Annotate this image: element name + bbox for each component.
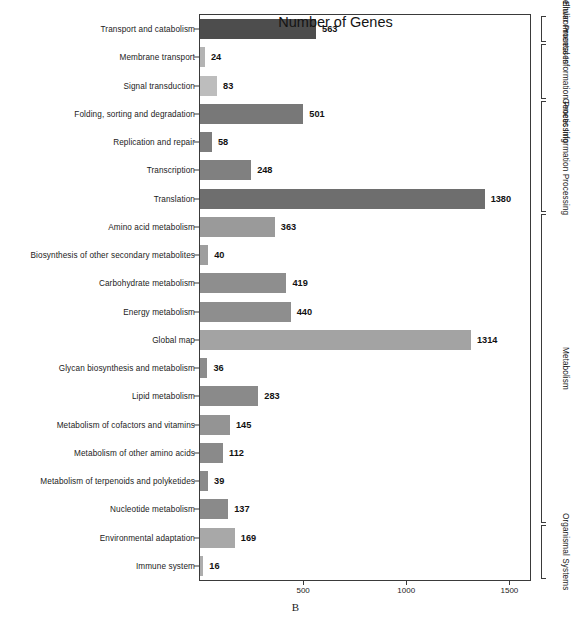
bar-row: Biosynthesis of other secondary metaboli… — [0, 241, 581, 269]
group-bracket: Environmental Information Processing — [541, 44, 581, 99]
bar — [200, 386, 258, 406]
bar — [200, 358, 207, 378]
y-axis-tick — [194, 537, 199, 538]
bar-value-label: 419 — [292, 278, 307, 288]
category-label: Energy metabolism — [123, 307, 195, 316]
category-label: Amino acid metabolism — [108, 222, 195, 231]
bar — [200, 189, 485, 209]
bar-value-label: 1380 — [491, 194, 511, 204]
bar — [200, 273, 286, 293]
category-label: Metabolism of cofactors and vitamins — [57, 420, 195, 429]
bar-row: Glycan biosynthesis and metabolism36 — [0, 354, 581, 382]
group-bracket: Organismal Systems — [541, 525, 581, 580]
y-axis-tick — [194, 509, 199, 510]
bar-value-label: 145 — [236, 420, 251, 430]
group-label: Genetic Information Processing — [541, 101, 581, 212]
y-axis-tick — [194, 481, 199, 482]
bar-value-label: 112 — [229, 448, 244, 458]
y-axis-tick — [194, 565, 199, 566]
bar-row: Signal transduction83 — [0, 72, 581, 100]
group-label: Metabolism — [541, 214, 581, 523]
category-label: Metabolism of terpenoids and polyketides — [40, 477, 195, 486]
x-axis-title-text: Number of Genes — [278, 14, 392, 30]
bar-row: Replication and repair58 — [0, 128, 581, 156]
category-label: Glycan biosynthesis and metabolism — [59, 364, 195, 373]
y-axis-tick — [194, 311, 199, 312]
category-label: Carbohydrate metabolism — [99, 279, 195, 288]
bar-row: Membrane transport24 — [0, 43, 581, 71]
group-bracket: Metabolism — [541, 214, 581, 523]
group-label-text: Organismal Systems — [552, 513, 570, 590]
bar-rows-container: Transport and catabolism563Membrane tran… — [0, 0, 581, 627]
bar-row: Environmental adaptation169 — [0, 524, 581, 552]
bar — [200, 104, 303, 124]
x-axis-title: Number of Genes — [0, 14, 581, 30]
bar-row: Folding, sorting and degradation501 — [0, 100, 581, 128]
bar — [200, 160, 251, 180]
category-label: Transcription — [147, 166, 195, 175]
category-label: Immune system — [136, 561, 195, 570]
bar-row: Carbohydrate metabolism419 — [0, 269, 581, 297]
category-label: Environmental adaptation — [100, 533, 195, 542]
bar — [200, 528, 235, 548]
category-label: Membrane transport — [119, 53, 195, 62]
bar-row: Global map1314 — [0, 326, 581, 354]
bar — [200, 443, 223, 463]
y-axis-tick — [194, 368, 199, 369]
bar-row: Nucleotide metabolism137 — [0, 495, 581, 523]
bar-value-label: 137 — [234, 504, 249, 514]
y-axis-tick — [194, 226, 199, 227]
bar-row: Metabolism of cofactors and vitamins145 — [0, 411, 581, 439]
bar-value-label: 16 — [209, 561, 219, 571]
category-label: Signal transduction — [123, 81, 195, 90]
bar — [200, 217, 275, 237]
panel-label: B — [0, 601, 581, 613]
category-label: Global map — [152, 335, 195, 344]
bar — [200, 499, 228, 519]
bar — [200, 330, 471, 350]
bar-row: Metabolism of terpenoids and polyketides… — [0, 467, 581, 495]
bar-row: Immune system16 — [0, 552, 581, 580]
x-axis-tick — [303, 581, 304, 585]
y-axis-tick — [194, 339, 199, 340]
y-axis-tick — [194, 198, 199, 199]
bar-value-label: 363 — [281, 222, 296, 232]
x-axis-tick-label: 500 — [296, 586, 309, 595]
y-axis-tick — [194, 452, 199, 453]
bar-row: Metabolism of other amino acids112 — [0, 439, 581, 467]
bar-value-label: 24 — [211, 52, 221, 62]
group-label-text: Metabolism — [552, 347, 570, 390]
panel-label-text: B — [292, 601, 299, 613]
bar-value-label: 1314 — [477, 335, 497, 345]
y-axis-tick — [194, 113, 199, 114]
bar-value-label: 440 — [297, 307, 312, 317]
y-axis-tick — [194, 142, 199, 143]
bar-row: Transcription248 — [0, 156, 581, 184]
bar — [200, 415, 230, 435]
category-label: Lipid metabolism — [132, 392, 195, 401]
y-axis-tick — [194, 85, 199, 86]
category-label: Folding, sorting and degradation — [74, 109, 195, 118]
category-group-brackets: Cellular ProcessesEnvironmental Informat… — [541, 0, 581, 627]
x-axis-tick — [509, 581, 510, 585]
bar-value-label: 169 — [241, 533, 256, 543]
group-label: Organismal Systems — [541, 525, 581, 580]
bar-value-label: 36 — [213, 363, 223, 373]
group-bracket: Genetic Information Processing — [541, 101, 581, 212]
bar-row: Energy metabolism440 — [0, 298, 581, 326]
x-axis-tick-label: 1000 — [397, 586, 415, 595]
y-axis-tick — [194, 424, 199, 425]
bar — [200, 471, 208, 491]
bar — [200, 556, 203, 576]
bar-value-label: 40 — [214, 250, 224, 260]
x-axis-tick — [406, 581, 407, 585]
y-axis-tick — [194, 396, 199, 397]
bar-row: Translation1380 — [0, 185, 581, 213]
category-label: Replication and repair — [113, 138, 195, 147]
bar-value-label: 58 — [218, 137, 228, 147]
bar-row: Lipid metabolism283 — [0, 382, 581, 410]
bar — [200, 245, 208, 265]
bar-value-label: 83 — [223, 81, 233, 91]
bar-value-label: 39 — [214, 476, 224, 486]
category-label: Metabolism of other amino acids — [74, 448, 195, 457]
